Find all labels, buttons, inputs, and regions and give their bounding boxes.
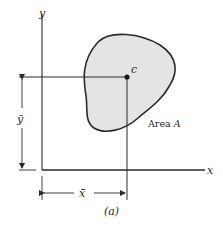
y-bar-label: ȳ — [16, 113, 24, 126]
x-axis-label: x — [207, 164, 214, 177]
centroid-point — [124, 74, 129, 79]
area-shape — [84, 34, 175, 131]
centroid-label: c — [131, 63, 137, 76]
figure-caption: (a) — [104, 205, 119, 218]
y-axis-label: y — [38, 7, 46, 20]
x-bar-label: x̄ — [79, 187, 86, 200]
centroid-diagram: y x c Area A ȳ x̄ (a) — [0, 0, 223, 230]
area-label: Area A — [147, 118, 181, 129]
